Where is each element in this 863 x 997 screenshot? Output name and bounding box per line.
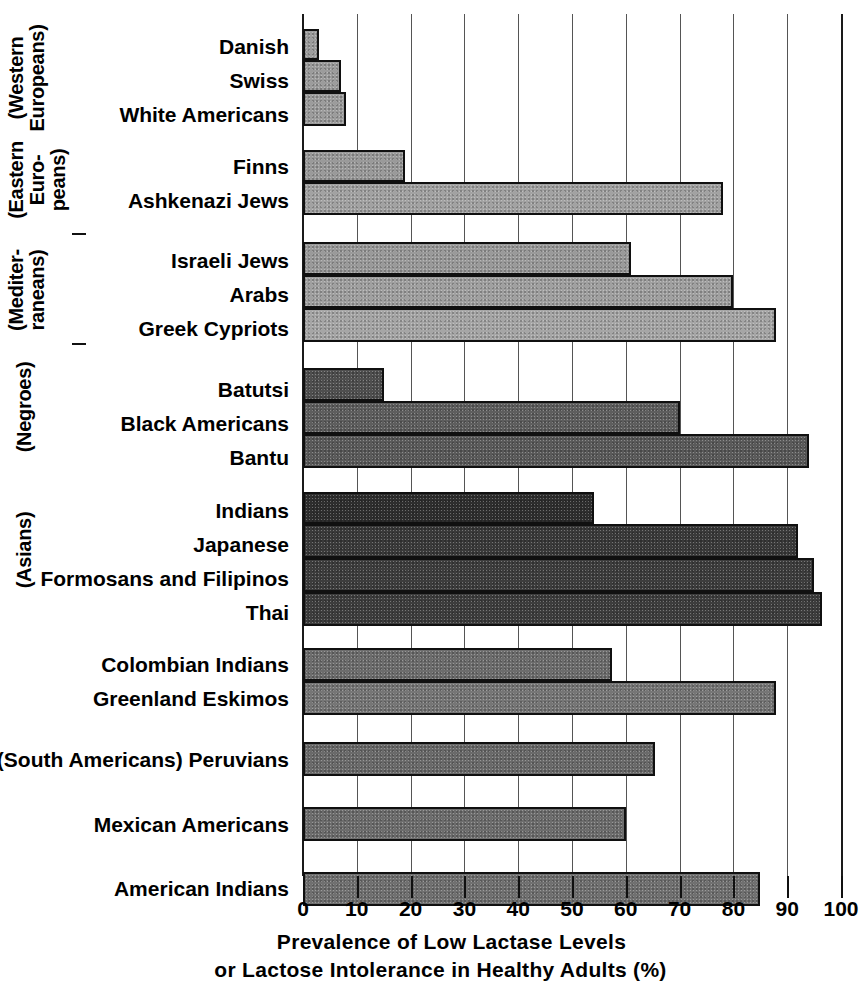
category-label-finns: Finns bbox=[233, 156, 289, 177]
x-tick-100 bbox=[841, 876, 843, 898]
category-label-bantu: Bantu bbox=[230, 447, 290, 468]
plot-area bbox=[303, 14, 841, 876]
category-label-batutsi: Batutsi bbox=[218, 379, 289, 400]
bar-colombian-indians[interactable] bbox=[303, 648, 612, 681]
x-tick-20 bbox=[411, 876, 413, 898]
x-tick-label-10: 10 bbox=[345, 898, 368, 919]
bar-black-americans[interactable] bbox=[303, 401, 680, 434]
category-label-south-americans-peruvians: (South Americans) Peruvians bbox=[0, 749, 289, 770]
x-axis-title-line2: or Lactose Intolerance in Healthy Adults… bbox=[0, 956, 863, 984]
x-axis: 0 10 20 30 40 50 60 70 80 90 100 bbox=[303, 876, 841, 916]
category-label-colombian-indians: Colombian Indians bbox=[101, 654, 289, 675]
bar-indians[interactable] bbox=[303, 492, 594, 524]
category-label-column: Danish Swiss White Americans Finns Ashke… bbox=[0, 0, 297, 880]
x-tick-label-0: 0 bbox=[297, 898, 309, 919]
x-tick-label-60: 60 bbox=[614, 898, 637, 919]
x-axis-title: Prevalence of Low Lactase Levels or Lact… bbox=[0, 928, 863, 985]
bar-japanese[interactable] bbox=[303, 524, 798, 558]
bar-formosans-and-filipinos[interactable] bbox=[303, 558, 814, 592]
x-tick-50 bbox=[572, 876, 574, 898]
bar-israeli-jews[interactable] bbox=[303, 242, 631, 275]
category-label-american-indians: American Indians bbox=[114, 878, 289, 899]
lactose-intolerance-bar-chart: (Western Europeans) (Eastern Euro- peans… bbox=[0, 0, 863, 997]
category-label-japanese: Japanese bbox=[193, 534, 289, 555]
x-tick-label-70: 70 bbox=[668, 898, 691, 919]
bar-arabs[interactable] bbox=[303, 275, 733, 308]
category-label-formosans-and-filipinos: Formosans and Filipinos bbox=[40, 568, 289, 589]
category-label-arabs: Arabs bbox=[229, 284, 289, 305]
bar-danish[interactable] bbox=[303, 29, 319, 60]
bar-thai[interactable] bbox=[303, 592, 822, 626]
bar-south-americans-peruvians[interactable] bbox=[303, 742, 655, 776]
category-label-mexican-americans: Mexican Americans bbox=[94, 814, 289, 835]
x-tick-70 bbox=[680, 876, 682, 898]
bar-bantu[interactable] bbox=[303, 434, 809, 468]
x-tick-0 bbox=[303, 876, 305, 898]
bar-greenland-eskimos[interactable] bbox=[303, 681, 776, 715]
category-label-greek-cypriots: Greek Cypriots bbox=[138, 318, 289, 339]
x-tick-60 bbox=[626, 876, 628, 898]
category-label-danish: Danish bbox=[219, 36, 289, 57]
x-tick-30 bbox=[464, 876, 466, 898]
category-label-thai: Thai bbox=[246, 602, 289, 623]
x-tick-40 bbox=[518, 876, 520, 898]
x-tick-10 bbox=[357, 876, 359, 898]
bar-white-americans[interactable] bbox=[303, 92, 346, 126]
x-tick-label-40: 40 bbox=[507, 898, 530, 919]
bar-batutsi[interactable] bbox=[303, 368, 384, 401]
category-label-white-americans: White Americans bbox=[119, 104, 289, 125]
category-label-indians: Indians bbox=[215, 500, 289, 521]
bar-finns[interactable] bbox=[303, 150, 405, 182]
x-tick-80 bbox=[733, 876, 735, 898]
category-label-israeli-jews: Israeli Jews bbox=[171, 250, 289, 271]
category-label-black-americans: Black Americans bbox=[121, 413, 289, 434]
gridline-100 bbox=[841, 14, 843, 876]
bar-mexican-americans[interactable] bbox=[303, 807, 626, 841]
bar-ashkenazi-jews[interactable] bbox=[303, 182, 723, 215]
x-tick-label-100: 100 bbox=[823, 898, 858, 919]
x-tick-90 bbox=[787, 876, 789, 898]
x-tick-label-20: 20 bbox=[399, 898, 422, 919]
bar-greek-cypriots[interactable] bbox=[303, 308, 776, 342]
bar-swiss[interactable] bbox=[303, 60, 341, 92]
x-tick-label-50: 50 bbox=[560, 898, 583, 919]
x-tick-label-30: 30 bbox=[453, 898, 476, 919]
x-tick-label-90: 90 bbox=[776, 898, 799, 919]
category-label-swiss: Swiss bbox=[229, 70, 289, 91]
category-label-ashkenazi-jews: Ashkenazi Jews bbox=[128, 190, 289, 211]
x-axis-title-line1: Prevalence of Low Lactase Levels bbox=[0, 928, 863, 956]
category-label-greenland-eskimos: Greenland Eskimos bbox=[93, 688, 289, 709]
x-tick-label-80: 80 bbox=[722, 898, 745, 919]
